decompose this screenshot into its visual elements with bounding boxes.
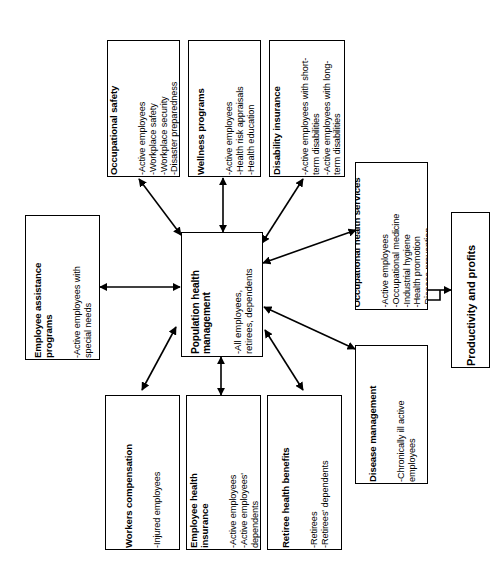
node-title: Population health management: [190, 236, 214, 354]
node-title: Occupational health services: [355, 165, 361, 308]
node-title: Retiree health benefits: [279, 398, 290, 548]
node-items: -Active employees -Active employees' dep…: [228, 398, 260, 548]
node-items: -All employees, retirees, dependents: [232, 236, 254, 354]
node-disease-management[interactable]: Disease management -Chronically ill acti…: [355, 345, 428, 484]
node-title: Disability insurance: [271, 43, 282, 175]
node-title: Wellness programs: [194, 43, 205, 175]
node-productivity-and-profits[interactable]: Productivity and profits: [451, 212, 490, 368]
connector-phm-occupational-health-services: [263, 230, 356, 263]
node-title: Employee health insurance: [187, 398, 209, 548]
node-items: -Active employees -Health risk appraisal…: [223, 43, 255, 175]
node-items: -Chronically ill active employees: [396, 348, 417, 482]
connector-phm-disease-management: [264, 307, 355, 349]
node-wellness-programs[interactable]: Wellness programs -Active employees -Hea…: [188, 40, 261, 177]
connector-phm-workers-compensation: [142, 327, 176, 390]
connector-phm-occupational-safety: [139, 179, 181, 235]
node-occupational-safety[interactable]: Occupational safety -Active employees -W…: [107, 40, 180, 177]
node-disability-insurance[interactable]: Disability insurance -Active employees w…: [269, 40, 345, 177]
node-items: -Injured employees: [152, 398, 163, 548]
node-items: -Active employees with special needs: [72, 218, 93, 358]
connector-phm-retiree-health-benefits: [265, 330, 303, 390]
node-title: Productivity and profits: [464, 214, 477, 366]
node-items: -Retirees -Retirees' dependents: [309, 398, 330, 548]
node-employee-health-insurance[interactable]: Employee health insurance -Active employ…: [186, 395, 261, 550]
node-items: -Active employees with short- term disab…: [300, 43, 343, 175]
node-items: -Active employees -Occupational medicine…: [380, 165, 428, 308]
node-title: Occupational safety: [107, 43, 118, 175]
node-employee-assistance-programs[interactable]: Employee assistance programs -Active emp…: [25, 215, 100, 360]
node-items: -Active employees -Workplace safety -Wor…: [137, 43, 180, 175]
node-title: Employee assistance programs: [31, 218, 53, 358]
connector-phm-disability-insurance: [262, 179, 303, 243]
diagram-canvas: Occupational safety -Active employees -W…: [0, 0, 504, 575]
node-title: Disease management: [366, 348, 377, 482]
connector-disease-management-productivity: [428, 290, 440, 300]
node-occupational-health-services[interactable]: Occupational health services -Active emp…: [355, 162, 428, 310]
node-retiree-health-benefits[interactable]: Retiree health benefits -Retirees -Retir…: [267, 395, 342, 550]
node-population-health-management[interactable]: Population health management -All employ…: [181, 232, 263, 357]
node-title: Workers compensation: [122, 398, 133, 548]
node-workers-compensation[interactable]: Workers compensation -Injured employees: [105, 395, 180, 550]
